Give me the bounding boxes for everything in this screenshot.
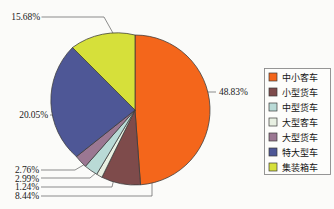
legend-label-集装箱车: 集装箱车 bbox=[282, 162, 318, 173]
legend: 中小客车 小型货车 中型货车 大型客车 大型货车 特大型车 bbox=[265, 69, 331, 175]
pie-slice-中小客车[interactable] bbox=[135, 35, 210, 185]
legend-item-大型客车[interactable]: 大型客车 bbox=[269, 117, 318, 128]
legend-label-小型货车: 小型货车 bbox=[282, 87, 318, 98]
legend-swatch-中型货车 bbox=[269, 103, 277, 111]
legend-label-中小客车: 中小客车 bbox=[282, 72, 318, 83]
pct-label-48-83: 48.83% bbox=[219, 87, 248, 97]
legend-swatch-集装箱车 bbox=[269, 163, 277, 171]
pct-label-8-44: 8.44% bbox=[15, 191, 39, 201]
legend-label-特大型车: 特大型车 bbox=[282, 147, 318, 158]
legend-label-大型客车: 大型客车 bbox=[282, 117, 318, 128]
legend-swatch-大型客车 bbox=[269, 118, 277, 126]
legend-item-集装箱车[interactable]: 集装箱车 bbox=[269, 162, 318, 173]
pct-label-20-05: 20.05% bbox=[19, 110, 48, 120]
legend-label-中型货车: 中型货车 bbox=[282, 102, 318, 113]
pie-chart-figure: 15.68% 20.05% 48.83% 2.76% 2.99% 1.24% 8… bbox=[0, 0, 334, 209]
legend-swatch-中小客车 bbox=[269, 73, 277, 81]
legend-item-小型货车[interactable]: 小型货车 bbox=[269, 87, 318, 98]
legend-item-中型货车[interactable]: 中型货车 bbox=[269, 102, 318, 113]
legend-item-大型货车[interactable]: 大型货车 bbox=[269, 132, 318, 143]
legend-item-特大型车[interactable]: 特大型车 bbox=[269, 147, 318, 158]
pct-label-15-68: 15.68% bbox=[11, 12, 40, 22]
legend-item-中小客车[interactable]: 中小客车 bbox=[269, 72, 318, 83]
chart-canvas: 15.68% 20.05% 48.83% 2.76% 2.99% 1.24% 8… bbox=[0, 0, 334, 209]
legend-swatch-小型货车 bbox=[269, 88, 277, 96]
legend-swatch-特大型车 bbox=[269, 148, 277, 156]
legend-swatch-大型货车 bbox=[269, 133, 277, 141]
legend-label-大型货车: 大型货车 bbox=[282, 132, 318, 143]
